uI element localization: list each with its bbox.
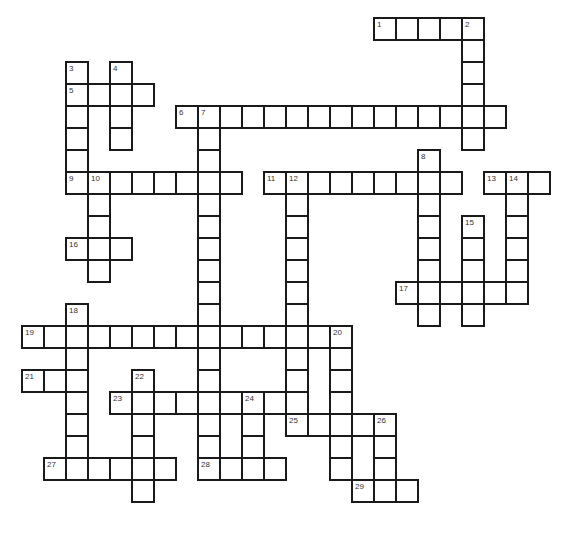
crossword-cell[interactable]: 18 (65, 303, 89, 327)
crossword-cell[interactable] (285, 281, 309, 305)
crossword-cell[interactable] (219, 457, 243, 481)
crossword-cell[interactable] (219, 105, 243, 129)
crossword-cell[interactable] (153, 457, 177, 481)
crossword-cell[interactable] (505, 193, 529, 217)
crossword-cell[interactable] (417, 193, 441, 217)
crossword-cell[interactable] (527, 171, 551, 195)
crossword-cell[interactable] (65, 369, 89, 393)
crossword-cell[interactable] (153, 325, 177, 349)
crossword-cell[interactable] (439, 105, 463, 129)
crossword-cell[interactable] (197, 369, 221, 393)
crossword-cell[interactable] (373, 479, 397, 503)
crossword-cell[interactable] (285, 259, 309, 283)
crossword-cell[interactable] (417, 105, 441, 129)
crossword-cell[interactable] (241, 435, 265, 459)
crossword-cell[interactable] (65, 325, 89, 349)
crossword-cell[interactable] (417, 17, 441, 41)
crossword-cell[interactable] (65, 413, 89, 437)
crossword-cell[interactable] (263, 105, 287, 129)
crossword-cell[interactable] (329, 413, 353, 437)
crossword-cell[interactable] (373, 457, 397, 481)
crossword-cell[interactable] (461, 39, 485, 63)
crossword-cell[interactable] (197, 281, 221, 305)
crossword-cell[interactable] (285, 193, 309, 217)
crossword-cell[interactable] (373, 105, 397, 129)
crossword-cell[interactable] (87, 457, 111, 481)
crossword-cell[interactable] (417, 281, 441, 305)
crossword-cell[interactable] (461, 83, 485, 107)
crossword-cell[interactable] (505, 237, 529, 261)
crossword-cell[interactable] (285, 105, 309, 129)
crossword-cell[interactable] (241, 457, 265, 481)
crossword-cell[interactable]: 25 (285, 413, 309, 437)
crossword-cell[interactable] (329, 105, 353, 129)
crossword-cell[interactable] (351, 105, 375, 129)
crossword-cell[interactable] (219, 325, 243, 349)
crossword-cell[interactable] (241, 325, 265, 349)
crossword-cell[interactable] (505, 259, 529, 283)
crossword-cell[interactable] (197, 259, 221, 283)
crossword-cell[interactable] (175, 391, 199, 415)
crossword-cell[interactable] (43, 325, 67, 349)
crossword-cell[interactable] (87, 193, 111, 217)
crossword-cell[interactable] (109, 83, 133, 107)
crossword-cell[interactable]: 21 (21, 369, 45, 393)
crossword-cell[interactable] (483, 105, 507, 129)
crossword-cell[interactable] (241, 413, 265, 437)
crossword-cell[interactable] (329, 457, 353, 481)
crossword-cell[interactable]: 6 (175, 105, 199, 129)
crossword-cell[interactable]: 7 (197, 105, 221, 129)
crossword-cell[interactable] (307, 171, 331, 195)
crossword-cell[interactable]: 27 (43, 457, 67, 481)
crossword-cell[interactable] (329, 391, 353, 415)
crossword-cell[interactable] (109, 127, 133, 151)
crossword-cell[interactable]: 17 (395, 281, 419, 305)
crossword-cell[interactable] (197, 127, 221, 151)
crossword-cell[interactable] (219, 171, 243, 195)
crossword-cell[interactable] (417, 303, 441, 327)
crossword-cell[interactable] (329, 435, 353, 459)
crossword-cell[interactable] (175, 171, 199, 195)
crossword-cell[interactable] (439, 281, 463, 305)
crossword-cell[interactable] (131, 435, 155, 459)
crossword-cell[interactable] (109, 325, 133, 349)
crossword-cell[interactable]: 28 (197, 457, 221, 481)
crossword-cell[interactable] (505, 215, 529, 239)
crossword-cell[interactable] (87, 83, 111, 107)
crossword-cell[interactable] (351, 413, 375, 437)
crossword-cell[interactable] (285, 237, 309, 261)
crossword-cell[interactable] (395, 105, 419, 129)
crossword-cell[interactable] (461, 105, 485, 129)
crossword-cell[interactable] (109, 237, 133, 261)
crossword-cell[interactable]: 14 (505, 171, 529, 195)
crossword-cell[interactable]: 26 (373, 413, 397, 437)
crossword-cell[interactable] (153, 391, 177, 415)
crossword-cell[interactable]: 3 (65, 61, 89, 85)
crossword-cell[interactable] (285, 347, 309, 371)
crossword-cell[interactable] (197, 347, 221, 371)
crossword-cell[interactable] (219, 391, 243, 415)
crossword-cell[interactable]: 5 (65, 83, 89, 107)
crossword-cell[interactable] (109, 457, 133, 481)
crossword-cell[interactable]: 29 (351, 479, 375, 503)
crossword-cell[interactable]: 23 (109, 391, 133, 415)
crossword-cell[interactable] (65, 457, 89, 481)
crossword-cell[interactable] (395, 479, 419, 503)
crossword-cell[interactable] (131, 413, 155, 437)
crossword-cell[interactable]: 20 (329, 325, 353, 349)
crossword-cell[interactable] (197, 391, 221, 415)
crossword-cell[interactable] (285, 325, 309, 349)
crossword-cell[interactable]: 1 (373, 17, 397, 41)
crossword-cell[interactable] (439, 171, 463, 195)
crossword-cell[interactable]: 11 (263, 171, 287, 195)
crossword-cell[interactable] (65, 105, 89, 129)
crossword-cell[interactable] (131, 391, 155, 415)
crossword-cell[interactable] (175, 325, 199, 349)
crossword-cell[interactable] (417, 171, 441, 195)
crossword-cell[interactable] (263, 325, 287, 349)
crossword-cell[interactable] (197, 149, 221, 173)
crossword-cell[interactable] (131, 457, 155, 481)
crossword-cell[interactable]: 24 (241, 391, 265, 415)
crossword-cell[interactable] (461, 303, 485, 327)
crossword-cell[interactable] (87, 215, 111, 239)
